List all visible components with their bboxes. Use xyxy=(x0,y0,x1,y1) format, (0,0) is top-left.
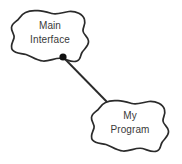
node-main-interface-label-line2: Interface xyxy=(30,34,70,45)
diagram-svg: Main Interface My Program xyxy=(0,0,182,164)
connector-line[interactable] xyxy=(63,57,108,103)
node-my-program-label-line1: My xyxy=(123,110,137,121)
node-main-interface-label-line1: Main xyxy=(39,20,61,31)
connector-endpoint-dot-icon[interactable] xyxy=(59,53,66,60)
node-my-program-label-line2: Program xyxy=(110,124,149,135)
diagram-canvas: Main Interface My Program xyxy=(0,0,182,164)
